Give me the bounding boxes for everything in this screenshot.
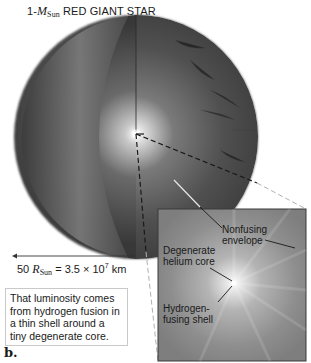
label-envelope-line2: envelope: [222, 235, 267, 246]
label-nonfusing-envelope: Nonfusing envelope: [222, 224, 267, 246]
caption-box: That luminosity comes from hydrogen fusi…: [5, 288, 128, 346]
scale-value: 50: [17, 263, 29, 275]
label-core-line1: Degenerate: [163, 245, 215, 256]
panel-label: b.: [4, 345, 18, 360]
label-degenerate-helium-core: Degenerate helium core: [163, 245, 215, 267]
scale-equals: = 3.5 × 10: [55, 263, 105, 275]
zoom-line-bottom-outside: [146, 252, 158, 361]
scale-exponent: 7: [105, 262, 109, 269]
radius-subscript: Sun: [40, 268, 52, 277]
scale-unit: km: [112, 263, 127, 275]
label-shell-line2: fusing shell: [163, 314, 213, 325]
label-core-line2: helium core: [163, 256, 215, 267]
scale-label: 50 RSun = 3.5 × 107 km: [17, 262, 126, 277]
label-envelope-line1: Nonfusing: [222, 224, 267, 235]
label-shell-line1: Hydrogen-: [163, 303, 213, 314]
label-hydrogen-fusing-shell: Hydrogen- fusing shell: [163, 303, 213, 325]
zoom-line-top-outside: [257, 183, 306, 209]
radius-symbol: R: [32, 262, 39, 276]
